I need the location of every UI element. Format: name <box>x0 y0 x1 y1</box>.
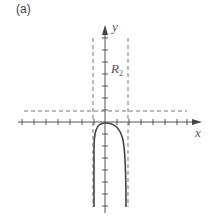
curve <box>94 123 126 207</box>
y-axis <box>102 25 108 213</box>
x-axis-label: x <box>194 125 201 140</box>
y-axis-arrow-icon <box>102 25 108 35</box>
region-label: R2 <box>110 61 123 78</box>
y-axis-label: y <box>110 19 118 34</box>
graph: y x R2 <box>0 0 215 219</box>
